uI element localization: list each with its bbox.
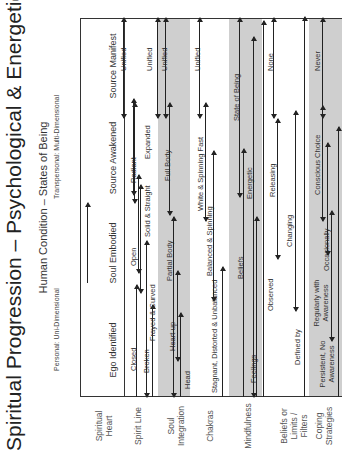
stage-source-manifest: Source Manifest bbox=[108, 19, 118, 113]
arrow bbox=[263, 21, 264, 397]
arrow bbox=[338, 127, 339, 397]
state-changing: Changing bbox=[285, 215, 294, 247]
arrow bbox=[273, 18, 274, 118]
state-full-body: Full Body bbox=[163, 150, 172, 181]
row-label-spirit-line: Spirit Line bbox=[133, 401, 143, 451]
state-white-spinning: White & Spinning Fast bbox=[196, 137, 205, 211]
arrow bbox=[146, 241, 147, 397]
arrow bbox=[327, 143, 328, 255]
arrow bbox=[322, 106, 323, 221]
state-head: Head bbox=[183, 371, 192, 389]
arrow bbox=[256, 217, 257, 397]
state-regularly: Regularly with Awareness bbox=[312, 273, 330, 333]
stage-soul-embodied: Soul Embodied bbox=[108, 206, 118, 300]
dimension-arrow bbox=[87, 203, 88, 283]
arrow bbox=[253, 37, 254, 397]
diagram-title: Spiritual Progression – Psychological & … bbox=[2, 0, 26, 451]
arrow bbox=[180, 313, 181, 397]
state-conscious-choice: Conscious Choice bbox=[313, 135, 322, 195]
arrow bbox=[138, 175, 139, 273]
arrow bbox=[277, 119, 278, 259]
row-label-soul-integration: Soul Integration bbox=[166, 401, 186, 451]
state-observed: Observed bbox=[266, 278, 275, 311]
arrow bbox=[157, 18, 158, 118]
arrow bbox=[123, 18, 124, 118]
state-persistent: Persistent, No Awareness bbox=[318, 337, 336, 391]
row-label-coping: Coping Strategies bbox=[314, 401, 334, 451]
arrow bbox=[134, 103, 135, 203]
dimension-left: Personal: Uni-Dimensional bbox=[53, 288, 60, 371]
header-subtitle: Human Condition – States of Being bbox=[37, 18, 49, 397]
arrow bbox=[304, 17, 305, 397]
row-label-chakras: Chakras bbox=[205, 401, 215, 451]
diagram-rotated: Spiritual Progression – Psychological & … bbox=[0, 0, 343, 451]
state-frayed: Frayed & Curved bbox=[148, 284, 157, 341]
arrow bbox=[133, 99, 134, 195]
dimension-right: Transpersonal: Multi-Dimensional bbox=[53, 95, 60, 199]
row-label-beliefs: Beliefs or Limits / Filters bbox=[279, 401, 309, 451]
header-divider bbox=[124, 18, 125, 397]
state-solid: Solid & Straight bbox=[143, 185, 152, 237]
state-never: Never bbox=[313, 51, 322, 71]
arrow bbox=[322, 18, 323, 118]
row-label-mindfulness: Mindfulness bbox=[243, 401, 253, 451]
arrow bbox=[169, 103, 170, 215]
state-open: Open bbox=[129, 248, 138, 266]
arrow bbox=[199, 18, 200, 118]
arrow bbox=[239, 18, 240, 197]
arrow bbox=[213, 151, 214, 301]
arrow bbox=[177, 271, 178, 361]
arrow bbox=[243, 149, 244, 397]
state-expanded: Expanded bbox=[143, 125, 152, 159]
arrow bbox=[173, 217, 174, 397]
arrow bbox=[136, 285, 137, 397]
arrow bbox=[165, 18, 166, 118]
arrow bbox=[222, 267, 223, 397]
stage-ego-identified: Ego Identified bbox=[108, 303, 118, 397]
state-unified-4: Unified bbox=[193, 48, 202, 71]
arrow bbox=[331, 211, 332, 341]
state-unified-2: Unified bbox=[145, 48, 154, 71]
state-defined-by: Defined by bbox=[293, 329, 302, 365]
row-label-spiritual-heart: Spiritual Heart bbox=[94, 401, 114, 451]
state-releasing: Releasing bbox=[268, 164, 277, 197]
stage-source-awakened: Source Awakened bbox=[108, 111, 118, 205]
arrow bbox=[140, 185, 141, 293]
arrow bbox=[205, 103, 206, 221]
arrow bbox=[295, 111, 296, 311]
